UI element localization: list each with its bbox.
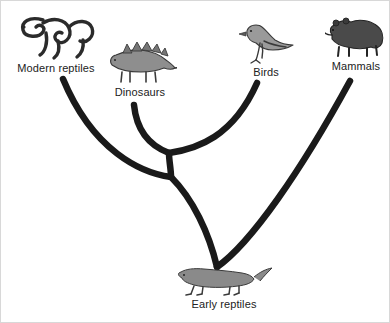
- bird-illustration-icon: [236, 17, 296, 65]
- bear-illustration-icon: [325, 13, 387, 59]
- taxon-label-mammals: Mammals: [332, 60, 380, 73]
- taxon-early-reptiles: Early reptiles: [164, 263, 284, 311]
- branch-root-to-reptile-clade: [171, 177, 217, 267]
- taxon-mammals: Mammals: [321, 13, 390, 73]
- early-reptile-illustration-icon: [172, 263, 276, 297]
- taxon-label-birds: Birds: [253, 66, 279, 79]
- taxon-dinosaurs: Dinosaurs: [99, 39, 181, 99]
- branch-archosaur-internode: [169, 153, 171, 177]
- branch-birds: [169, 83, 257, 153]
- taxon-modern-reptiles: Modern reptiles: [6, 11, 106, 75]
- snake-illustration-icon: [13, 11, 99, 61]
- taxon-label-early-reptiles: Early reptiles: [192, 298, 257, 311]
- branch-mammals: [217, 81, 350, 267]
- stegosaurus-illustration-icon: [103, 39, 177, 85]
- taxon-birds: Birds: [229, 17, 303, 79]
- branch-dinosaurs: [134, 105, 169, 153]
- taxon-label-modern-reptiles: Modern reptiles: [17, 62, 94, 75]
- phylogenetic-tree-diagram: Modern reptiles: [0, 0, 390, 323]
- taxon-label-dinosaurs: Dinosaurs: [115, 86, 165, 99]
